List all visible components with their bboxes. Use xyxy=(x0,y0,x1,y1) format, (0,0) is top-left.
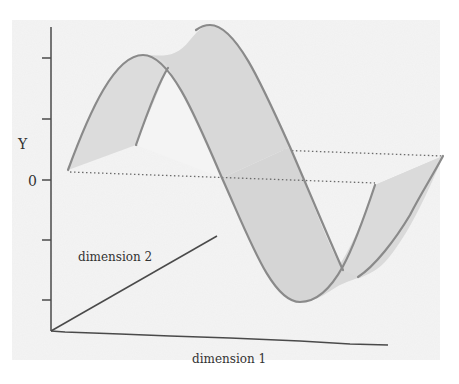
sine-ribbon-diagram: Y 0 dimension 2 dimension 1 xyxy=(0,0,459,384)
y-axis-label: Y xyxy=(17,136,28,152)
zero-tick-label: 0 xyxy=(28,173,37,189)
dimension-1-label: dimension 1 xyxy=(192,352,266,366)
dimension-2-label: dimension 2 xyxy=(78,250,152,264)
